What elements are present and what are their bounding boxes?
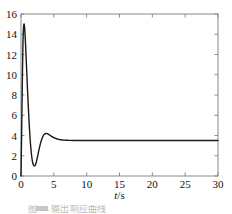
x-tick-label: 25 (180, 178, 192, 190)
x-tick-label: 5 (51, 178, 57, 190)
x-tick-label: 30 (213, 178, 225, 190)
figure-caption: 图 — 输出响应曲线 (28, 205, 228, 214)
y-tick-label: 10 (6, 69, 18, 81)
line-chart: 051015202530 0246810121416 t/s (0, 0, 232, 214)
y-tick-label: 4 (12, 130, 18, 142)
x-axis-title: t/s (114, 189, 124, 201)
y-tick-label: 8 (12, 89, 18, 101)
y-tick-label: 16 (6, 8, 18, 20)
y-tick-label: 2 (12, 150, 18, 162)
y-tick-label: 6 (12, 109, 18, 121)
x-tick-label: 0 (18, 178, 24, 190)
y-tick-label: 14 (6, 28, 18, 40)
figure-container: 051015202530 0246810121416 t/s 图 — 输出响应曲… (0, 0, 232, 214)
x-tick-label: 10 (81, 178, 93, 190)
x-tick-label: 20 (147, 178, 159, 190)
figure-caption-strip: 图 — 输出响应曲线 (0, 205, 232, 214)
x-axis-title-unit: /s (117, 189, 124, 201)
y-tick-label: 12 (6, 49, 17, 61)
y-tick-label: 0 (12, 170, 18, 182)
